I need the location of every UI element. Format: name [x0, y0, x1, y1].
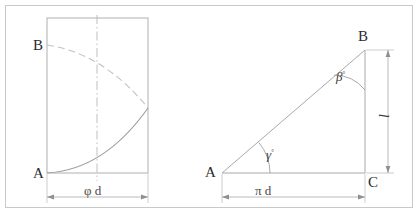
- left-point-label-a: A: [33, 166, 44, 181]
- right-point-label-c: C: [368, 175, 378, 190]
- right-point-label-b: B: [358, 29, 368, 44]
- right-point-label-a: A: [205, 165, 216, 180]
- geometry-drawing: [0, 0, 418, 216]
- angle-gamma-label: γ°: [266, 148, 274, 161]
- phi-d-dimension-label: φ d: [84, 184, 101, 197]
- angle-beta-degree-sign: °: [342, 70, 345, 78]
- pi-d-dimension-label: π d: [255, 184, 271, 197]
- angle-beta-label: β°: [336, 70, 345, 83]
- l-dimension-label: l: [378, 114, 392, 118]
- angle-gamma-degree-sign: °: [271, 148, 274, 156]
- diagram-canvas: B A φ d B A C γ° β° π d l: [0, 0, 418, 216]
- left-point-label-b: B: [33, 38, 43, 53]
